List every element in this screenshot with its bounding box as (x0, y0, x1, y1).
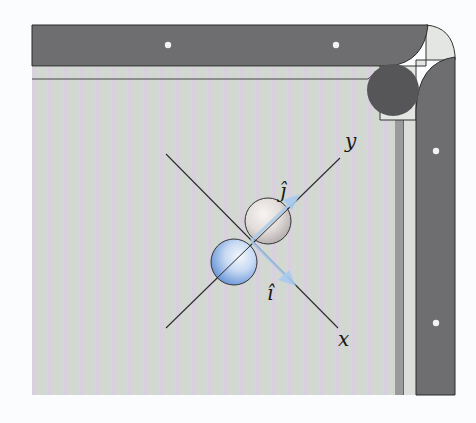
rail-diamond (165, 42, 171, 48)
corner-pocket (367, 64, 419, 116)
top-rail (32, 25, 428, 66)
x-axis-label: x (338, 327, 349, 351)
table-felt (32, 67, 406, 395)
right-rail (416, 57, 455, 395)
y-axis-label: y (344, 129, 357, 153)
rail-diamond (433, 320, 439, 326)
billiard-diagram: y x ĵ î (0, 0, 476, 423)
right-cushion-shadow (395, 118, 404, 395)
right-cushion-strip (404, 112, 416, 395)
gray-ball (245, 198, 291, 244)
rail-diamond (433, 148, 439, 154)
rail-diamond (333, 42, 339, 48)
